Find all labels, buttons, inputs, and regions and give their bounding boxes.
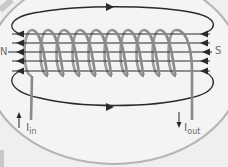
current-in-subscript: in [29, 127, 36, 136]
solenoid-diagram [0, 0, 228, 167]
background-ellipse [0, 0, 228, 167]
current-out-subscript: out [187, 127, 200, 136]
south-pole-label: S [215, 46, 221, 56]
current-in-label: Iin [26, 122, 37, 136]
current-out-label: Iout [184, 122, 200, 136]
north-pole-label: N [0, 47, 7, 57]
lead-in [31, 76, 32, 120]
